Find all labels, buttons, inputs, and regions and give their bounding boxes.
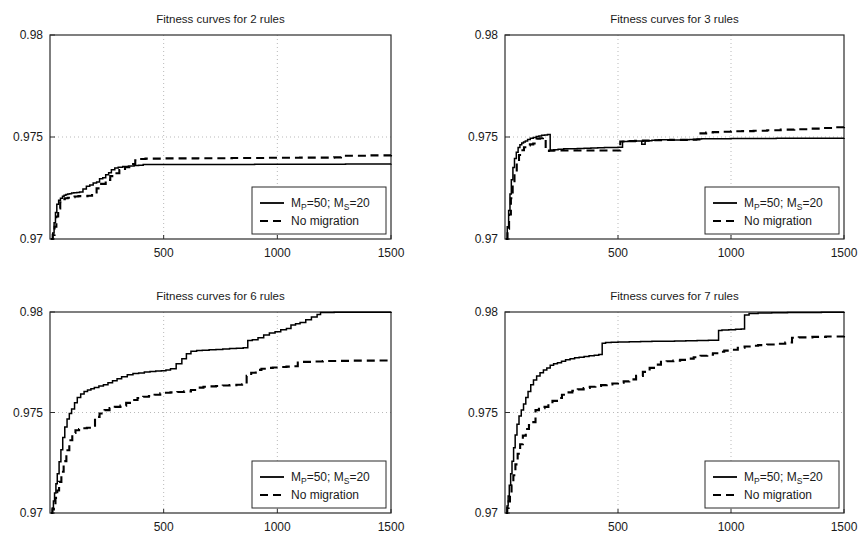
x-tick-label: 1500 bbox=[831, 246, 858, 260]
legend: MP=50; MS=20No migration bbox=[705, 461, 839, 508]
panel-title: Fitness curves for 3 rules bbox=[610, 13, 739, 25]
y-tick-label: 0.975 bbox=[13, 406, 43, 420]
y-tick-label: 0.97 bbox=[20, 506, 44, 520]
x-tick-label: 500 bbox=[608, 246, 628, 260]
x-tick-label: 1500 bbox=[378, 520, 405, 534]
x-tick-label: 1500 bbox=[378, 246, 405, 260]
y-tick-label: 0.97 bbox=[475, 506, 499, 520]
legend-label-no-migration: No migration bbox=[291, 488, 359, 502]
x-tick-label: 1000 bbox=[264, 520, 291, 534]
y-tick-label: 0.97 bbox=[20, 232, 44, 246]
y-tick-label: 0.98 bbox=[475, 305, 499, 319]
y-tick-label: 0.98 bbox=[20, 305, 44, 319]
legend: MP=50; MS=20No migration bbox=[252, 187, 386, 234]
panel-3-rules: Fitness curves for 3 rules500100015000.9… bbox=[455, 0, 863, 275]
legend-label-no-migration: No migration bbox=[744, 214, 812, 228]
x-tick-label: 1000 bbox=[264, 246, 291, 260]
legend: MP=50; MS=20No migration bbox=[705, 187, 839, 234]
legend-label-no-migration: No migration bbox=[744, 488, 812, 502]
legend: MP=50; MS=20No migration bbox=[252, 461, 386, 508]
panel-6-rules: Fitness curves for 6 rules500100015000.9… bbox=[0, 277, 432, 549]
x-tick-label: 500 bbox=[154, 246, 174, 260]
panel-title: Fitness curves for 7 rules bbox=[610, 290, 739, 302]
y-tick-label: 0.975 bbox=[13, 130, 43, 144]
y-tick-label: 0.98 bbox=[475, 28, 499, 42]
y-tick-label: 0.975 bbox=[468, 130, 498, 144]
x-tick-label: 500 bbox=[154, 520, 174, 534]
x-tick-label: 1500 bbox=[831, 520, 858, 534]
x-tick-label: 500 bbox=[608, 520, 628, 534]
panel-2-rules: Fitness curves for 2 rules500100015000.9… bbox=[0, 0, 432, 275]
x-tick-label: 1000 bbox=[718, 246, 745, 260]
y-tick-label: 0.98 bbox=[20, 28, 44, 42]
panel-7-rules: Fitness curves for 7 rules500100015000.9… bbox=[455, 277, 863, 549]
x-tick-label: 1000 bbox=[718, 520, 745, 534]
figure-fitness-curves: Fitness curves for 2 rules500100015000.9… bbox=[0, 0, 863, 549]
y-tick-label: 0.97 bbox=[475, 232, 499, 246]
y-tick-label: 0.975 bbox=[468, 406, 498, 420]
panel-title: Fitness curves for 6 rules bbox=[156, 290, 285, 302]
legend-label-no-migration: No migration bbox=[291, 214, 359, 228]
panel-title: Fitness curves for 2 rules bbox=[156, 13, 285, 25]
